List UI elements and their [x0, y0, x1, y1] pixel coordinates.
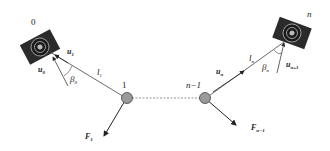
label-node-n-1: n−1: [186, 80, 201, 90]
label-F1: F1: [84, 132, 93, 142]
camera-n-icon: [272, 17, 311, 49]
joint-1: [122, 93, 133, 104]
label-betan-star: βn: [261, 62, 269, 73]
un1-star-arrow: [277, 43, 284, 73]
F1-arrow: [104, 99, 126, 136]
label-node-n: n: [307, 9, 312, 19]
label-un1-star: un+1: [286, 60, 299, 70]
label-beta0-star: β0: [69, 74, 77, 85]
label-un: un: [216, 67, 223, 77]
cable-camera-diagram: 0 1 n−1 n u1 u0 β0 l1 F1 un ln βn un+1 F…: [0, 0, 330, 151]
label-u1: u1: [67, 47, 74, 57]
joint-n-1: [200, 93, 211, 104]
Fn1-arrow: [206, 99, 236, 125]
label-Fn1: Fn−1: [250, 123, 265, 133]
label-ln: ln: [249, 53, 255, 64]
label-node-1: 1: [122, 80, 127, 90]
label-u0-star: u0: [38, 65, 45, 75]
label-l1: l1: [97, 67, 102, 78]
label-node-0: 0: [31, 17, 36, 27]
u1-arrow: [55, 55, 68, 63]
betan-arc: [274, 50, 282, 54]
